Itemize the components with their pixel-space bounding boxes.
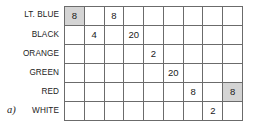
grid-cell[interactable] (105, 26, 125, 45)
row-label-green: GREEN (29, 69, 59, 77)
grid-cell[interactable] (184, 102, 204, 121)
grid-cell[interactable]: 2 (144, 45, 164, 64)
grid-cell[interactable] (144, 7, 164, 26)
grid-cell[interactable]: 8 (65, 7, 85, 26)
grid-cell[interactable] (144, 64, 164, 83)
cell-value: 8 (111, 11, 116, 21)
grid-cell[interactable] (105, 102, 125, 121)
row-label-lt-blue: LT. BLUE (24, 11, 59, 19)
grid-cell[interactable]: 8 (105, 7, 125, 26)
grid-cell[interactable] (65, 102, 85, 121)
grid-cell[interactable] (124, 64, 144, 83)
cell-value: 2 (210, 106, 215, 116)
grid-cell[interactable] (124, 45, 144, 64)
grid-cell[interactable]: 4 (85, 26, 105, 45)
grid-cell[interactable]: 8 (223, 83, 243, 102)
grid-cell[interactable] (184, 26, 204, 45)
row-label-red: RED (41, 88, 59, 96)
row-label-black: BLACK (32, 31, 59, 39)
grid-cell[interactable] (144, 26, 164, 45)
row-label-white: WHITE (32, 107, 59, 115)
grid-cell[interactable] (203, 7, 223, 26)
grid-cell[interactable] (164, 102, 184, 121)
table-row: 88 (65, 83, 243, 102)
grid-cell[interactable] (184, 45, 204, 64)
cell-value: 8 (190, 87, 195, 97)
grid-cell[interactable]: 20 (124, 26, 144, 45)
cell-value: 8 (230, 87, 235, 97)
grid-cell[interactable] (223, 7, 243, 26)
grid-cell[interactable] (65, 64, 85, 83)
grid-cell[interactable]: 20 (164, 64, 184, 83)
figure-tag: a) (7, 105, 16, 116)
grid-cell[interactable] (105, 45, 125, 64)
matrix-grid: 88420220882 (64, 6, 243, 121)
table-row: 2 (65, 45, 243, 64)
grid-cell[interactable] (105, 64, 125, 83)
row-label-item: ORANGE (0, 44, 62, 63)
grid-cell[interactable] (223, 102, 243, 121)
grid-cell[interactable] (223, 26, 243, 45)
grid-cell[interactable] (184, 7, 204, 26)
grid-cell[interactable] (203, 83, 223, 102)
grid-cell[interactable] (203, 45, 223, 64)
table-row: 420 (65, 26, 243, 45)
grid-cell[interactable] (144, 83, 164, 102)
grid-cell[interactable] (85, 7, 105, 26)
row-label-item: BLACK (0, 25, 62, 44)
grid-cell[interactable] (124, 83, 144, 102)
grid-cell[interactable] (164, 26, 184, 45)
cell-value: 4 (92, 30, 97, 40)
grid-cell[interactable] (203, 26, 223, 45)
row-label-item: RED (0, 83, 62, 102)
cell-value: 20 (128, 30, 139, 40)
cell-value: 20 (168, 68, 179, 78)
table-row: 88 (65, 7, 243, 26)
grid-cell[interactable] (223, 45, 243, 64)
grid-cell[interactable] (65, 45, 85, 64)
grid-cell[interactable] (124, 102, 144, 121)
figure-container: LT. BLUE BLACK ORANGE GREEN RED WHITE a)… (0, 0, 254, 129)
cell-value: 2 (151, 49, 156, 59)
grid-cell[interactable] (203, 64, 223, 83)
row-label-item: GREEN (0, 64, 62, 83)
cell-value: 8 (72, 11, 77, 21)
grid-cell[interactable] (85, 83, 105, 102)
grid-cell[interactable]: 8 (184, 83, 204, 102)
grid-cell[interactable] (65, 26, 85, 45)
grid-cell[interactable] (164, 7, 184, 26)
grid-cell[interactable] (164, 83, 184, 102)
grid-cell[interactable] (223, 64, 243, 83)
grid-cell[interactable] (184, 64, 204, 83)
grid-cell[interactable] (85, 45, 105, 64)
grid-cell[interactable]: 2 (203, 102, 223, 121)
row-label-orange: ORANGE (23, 50, 59, 58)
grid-cell[interactable] (65, 83, 85, 102)
grid-cell[interactable] (85, 102, 105, 121)
row-label-item: LT. BLUE (0, 6, 62, 25)
table-row: 2 (65, 102, 243, 121)
grid-cell[interactable] (85, 64, 105, 83)
grid-cell[interactable] (124, 7, 144, 26)
grid-cell[interactable] (105, 83, 125, 102)
grid-cell[interactable] (164, 45, 184, 64)
grid-cell[interactable] (144, 102, 164, 121)
table-row: 20 (65, 64, 243, 83)
